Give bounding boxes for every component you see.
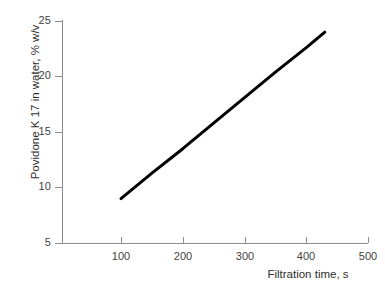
plot-area: [0, 0, 385, 290]
data-series-line: [121, 32, 325, 199]
chart-figure: 5 10 15 20 25 100 200 300 400 500 Povido…: [0, 0, 385, 290]
